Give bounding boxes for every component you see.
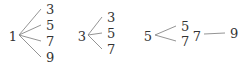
tree-1: 13579 (9, 2, 54, 65)
leaf-node: 5 (181, 19, 189, 34)
leaf-node: 5 (107, 26, 115, 41)
branch-line (204, 33, 225, 34)
leaf-node: 9 (230, 26, 238, 41)
tree-2: 3357 (78, 10, 115, 57)
branch-line (19, 25, 41, 35)
branch-line (88, 35, 102, 49)
root-node: 5 (144, 29, 152, 44)
root-node: 1 (9, 29, 17, 44)
leaf-node: 7 (46, 34, 54, 49)
branch-line (155, 35, 176, 41)
leaf-node: 7 (107, 42, 115, 57)
branch-line (88, 17, 102, 35)
root-node: 3 (78, 29, 86, 44)
leaf-node: 3 (107, 10, 115, 25)
tree-4: 79 (193, 26, 238, 44)
branch-line (155, 26, 176, 35)
leaf-node: 7 (181, 34, 189, 49)
tree-diagram: 13579335755779 (0, 0, 240, 67)
root-node: 7 (193, 29, 201, 44)
branch-line (19, 9, 41, 35)
tree-3: 557 (144, 19, 189, 49)
branch-line (88, 33, 102, 35)
leaf-node: 5 (46, 18, 54, 33)
leaf-node: 9 (46, 50, 54, 65)
leaf-node: 3 (46, 2, 54, 17)
